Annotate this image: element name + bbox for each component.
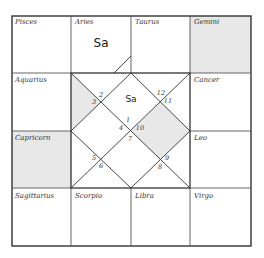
house-number-2: 2 [99,92,103,99]
planet-house-1: Sa [125,95,136,104]
house-3-shade [71,73,101,131]
house-number-11: 11 [164,98,172,105]
sign-label-leo: Leo [194,135,207,142]
house-number-12: 12 [157,90,165,97]
house-number-3: 3 [92,99,96,106]
house-number-4: 4 [119,125,123,132]
sign-label-scorpio: Scorpio [75,193,102,200]
sign-label-taurus: Taurus [135,19,159,26]
sign-label-cancer: Cancer [194,77,219,84]
house-number-9: 9 [165,155,169,162]
aries-corner-mark [114,56,131,73]
sign-label-sagittarius: Sagittarius [15,193,54,200]
house-number-1: 1 [126,117,130,124]
sign-label-pisces: Pisces [15,19,37,26]
sign-label-virgo: Virgo [194,193,213,200]
sign-label-aries: Aries [75,19,93,26]
sign-label-libra: Libra [135,193,154,200]
house-number-7: 7 [128,136,132,143]
sign-label-gemini: Gemini [194,19,219,26]
astrology-chart [0,0,264,258]
house-number-6: 6 [99,163,103,170]
house-number-5: 5 [92,155,96,162]
sign-label-aquarius: Aquarius [15,77,47,84]
house-number-8: 8 [158,164,162,171]
house-number-10: 10 [136,125,144,132]
planet-aries: Sa [94,37,109,49]
sign-label-capricorn: Capricorn [15,135,51,142]
